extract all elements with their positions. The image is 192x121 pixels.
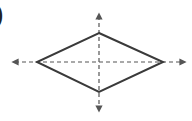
rhombus-diagram xyxy=(0,0,192,121)
